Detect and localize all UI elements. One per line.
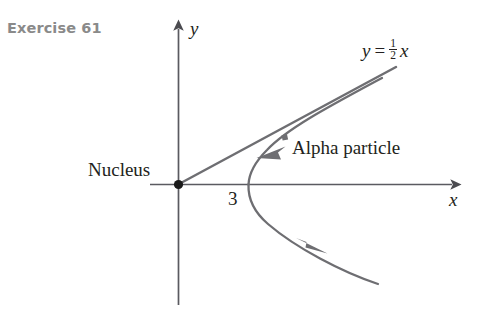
equation-lhs: y [362, 41, 370, 60]
x-intercept-label: 3 [228, 189, 238, 208]
trajectory-lower-branch [248, 185, 378, 285]
asymptote-line-group [179, 67, 396, 184]
fraction-numerator: 1 [389, 38, 397, 50]
fraction-denominator: 2 [389, 49, 397, 62]
asymptote-line [179, 67, 396, 184]
alpha-particle-dot [281, 134, 288, 141]
y-axis-label: y [190, 19, 198, 38]
axis-group [150, 29, 452, 305]
nucleus-origin-dot [174, 180, 183, 189]
asymptote-equation-label: y = 1 2 x [362, 38, 408, 62]
x-axis-label: x [449, 190, 457, 209]
exercise-number-label: Exercise 61 [7, 21, 102, 36]
nucleus-label: Nucleus [88, 160, 150, 179]
trajectory-upper-branch [249, 78, 383, 185]
outgoing-direction-arrowhead [296, 238, 328, 254]
exercise-figure: Exercise 61 Nucleus Alpha particle 3 y x… [0, 0, 481, 314]
hyperbola-trajectory-plot [0, 0, 481, 314]
equation-operator: = [373, 41, 386, 60]
alpha-particle-trajectory-group [248, 78, 382, 284]
alpha-particle-label: Alpha particle [292, 138, 400, 157]
equation-fraction: 1 2 [389, 38, 397, 62]
equation-variable: x [400, 41, 408, 60]
